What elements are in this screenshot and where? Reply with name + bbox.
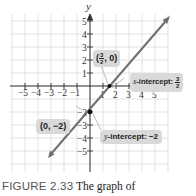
y-intercept-annotation: y-intercept: −2 bbox=[100, 130, 162, 144]
x-tick-label: −1 bbox=[70, 88, 80, 98]
x-tick-label: 3 bbox=[126, 90, 131, 100]
leader-line bbox=[93, 114, 101, 130]
y-axis-arrow-icon bbox=[88, 14, 93, 20]
x-intercept-point bbox=[108, 84, 112, 88]
y-axis-label: y bbox=[85, 0, 91, 12]
y-tick-label: 3 bbox=[82, 43, 87, 53]
y-intercept-point bbox=[88, 110, 93, 115]
y-tick-label: 2 bbox=[82, 56, 87, 66]
x-tick-label: −3 bbox=[44, 88, 54, 98]
y-tick-label: 1 bbox=[82, 69, 87, 79]
y-tick-label: −4 bbox=[77, 134, 87, 144]
figure-number: FIGURE 2.33 bbox=[2, 180, 73, 192]
graph: −5−4−3−2−11234554321−2−3−4−5 y x bbox=[0, 0, 196, 196]
y-tick-label: 4 bbox=[82, 30, 87, 40]
x-intercept-annotation: x-intercept: 32 bbox=[130, 73, 183, 92]
y-intercept-point-label: (0, −2) bbox=[36, 119, 70, 134]
y-tick-label: −5 bbox=[77, 147, 87, 157]
figure-caption: FIGURE 2.33 The graph of bbox=[2, 180, 135, 192]
x-tick-label: −5 bbox=[18, 88, 28, 98]
x-tick-label: 2 bbox=[113, 90, 118, 100]
caption-text: The graph of bbox=[76, 180, 135, 192]
x-tick-label: −2 bbox=[57, 88, 67, 98]
x-intercept-point-label: (32, 0) bbox=[93, 50, 120, 67]
y-tick-label: 5 bbox=[82, 17, 87, 27]
x-tick-label: −4 bbox=[31, 88, 41, 98]
